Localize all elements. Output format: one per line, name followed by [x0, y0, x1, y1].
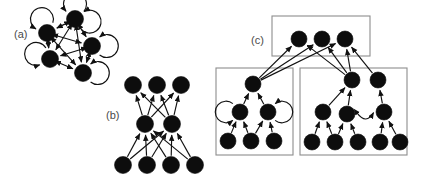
graph-node [125, 77, 142, 94]
graph-node [42, 51, 59, 68]
graph-node [339, 106, 355, 122]
graph-edge [77, 30, 82, 62]
graph-edge [327, 122, 332, 134]
panel-label-b: (b) [106, 109, 119, 121]
graph-edge [357, 113, 373, 119]
graph-node [260, 104, 276, 120]
graph-node [304, 134, 320, 150]
graph-node [137, 116, 154, 133]
graph-edge [244, 122, 248, 133]
graph-edge [389, 121, 396, 134]
graph-edge [146, 135, 147, 156]
graph-node [243, 133, 259, 149]
self-loop-edge [81, 10, 101, 33]
graph-node [173, 77, 190, 94]
graph-edge [60, 49, 81, 56]
graph-edge [244, 93, 249, 104]
graph-node [149, 77, 166, 94]
graph-node [139, 157, 156, 174]
self-loops-layer [25, 0, 293, 123]
graph-edge [177, 134, 190, 157]
graph-node [372, 134, 388, 150]
graph-node [315, 104, 331, 120]
graph-edge [60, 63, 73, 68]
graph-node [370, 72, 386, 88]
graph-node [327, 134, 343, 150]
graph-figure-svg: (a) (b) (c) [0, 0, 423, 186]
graph-edge [348, 90, 350, 105]
graph-node [350, 134, 366, 150]
graph-node [39, 25, 56, 42]
graph-edge [315, 122, 319, 134]
graph-edge [57, 24, 66, 28]
self-loop-edge [100, 35, 119, 58]
self-loop-edge [91, 62, 110, 85]
panel-label-c: (c) [251, 34, 264, 46]
graph-node [392, 134, 408, 150]
self-loop-edge [275, 101, 293, 123]
graph-edge [86, 56, 88, 62]
graph-node [245, 76, 261, 92]
graph-edge [270, 122, 272, 132]
graph-node [164, 116, 181, 133]
graph-node [163, 157, 180, 174]
graph-edge [255, 121, 262, 133]
graph-edge [338, 124, 342, 134]
graph-node [266, 133, 282, 149]
graph-node [220, 133, 236, 149]
self-loop-edge [64, 0, 87, 11]
graph-edge [48, 44, 49, 48]
self-loop-edge [215, 101, 233, 123]
graph-edge [231, 122, 236, 133]
graph-edge [307, 45, 345, 74]
panel-label-a: (a) [14, 28, 27, 40]
graph-edge [174, 96, 178, 115]
graph-node [291, 31, 307, 47]
graph-node [115, 157, 132, 174]
graph-edge [351, 124, 355, 134]
graph-edge [260, 45, 313, 80]
nodes-layer [39, 11, 409, 174]
graph-node [67, 11, 84, 28]
graph-edge [329, 88, 345, 106]
graph-edge [151, 93, 173, 117]
graph-node [232, 104, 248, 120]
figure-canvas: (a) (b) (c) [0, 0, 423, 186]
graph-edge [381, 122, 382, 133]
graph-node [187, 157, 204, 174]
graph-node [376, 104, 392, 120]
graph-node [75, 65, 92, 82]
graph-node [314, 31, 330, 47]
graph-edge [258, 93, 264, 104]
graph-node [344, 72, 360, 88]
graph-edge [352, 47, 373, 73]
graph-node [84, 38, 101, 55]
graph-edge [380, 90, 382, 103]
graph-node [337, 31, 353, 47]
graph-edge [127, 134, 139, 157]
graph-edge [136, 95, 142, 115]
